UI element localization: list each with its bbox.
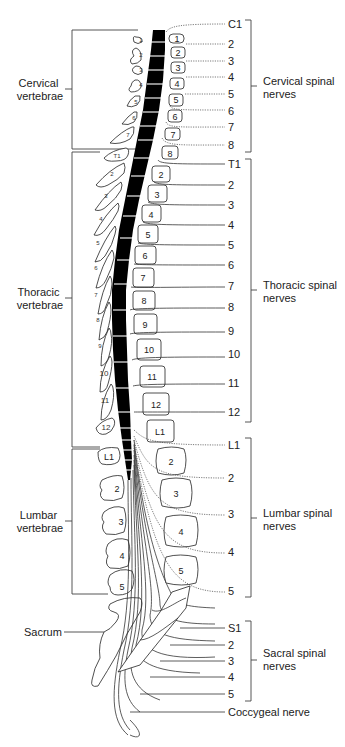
svg-text:6: 6: [172, 112, 177, 122]
svg-text:5: 5: [96, 240, 100, 246]
svg-text:4: 4: [119, 551, 124, 561]
svg-text:11: 11: [228, 377, 239, 389]
thoracic-nerves-bracket: [245, 159, 257, 422]
svg-text:7: 7: [94, 292, 98, 298]
svg-text:4: 4: [228, 71, 234, 83]
svg-text:3: 3: [228, 199, 234, 211]
spinal-anatomy-diagram: Cervical vertebrae Thoracic vertebrae Lu…: [0, 0, 345, 747]
svg-text:T1: T1: [228, 158, 241, 170]
cervical-spinous-processes: 1 2 3 4 5 6 7: [110, 37, 143, 144]
svg-text:3: 3: [139, 67, 143, 73]
svg-text:2: 2: [168, 457, 173, 467]
svg-text:3: 3: [173, 489, 178, 499]
svg-text:7: 7: [228, 121, 234, 133]
svg-text:5: 5: [228, 585, 234, 597]
svg-text:2: 2: [175, 48, 180, 58]
svg-text:C1: C1: [228, 18, 242, 30]
lumbar-vertebrae-bracket: [65, 449, 108, 594]
cervical-vertebrae-label: Cervical vertebrae: [17, 77, 63, 102]
svg-text:T1: T1: [113, 153, 121, 159]
svg-text:8: 8: [96, 317, 100, 323]
svg-text:9: 9: [142, 320, 147, 330]
sacral-nerve-labels: S1 2 3 4 5: [228, 622, 241, 700]
svg-text:5: 5: [228, 88, 234, 100]
svg-text:9: 9: [98, 343, 102, 349]
svg-text:5: 5: [228, 688, 234, 700]
svg-text:10: 10: [228, 348, 240, 360]
svg-text:3: 3: [154, 190, 159, 200]
svg-text:10: 10: [100, 369, 109, 378]
svg-text:9: 9: [228, 325, 234, 337]
svg-text:3: 3: [228, 508, 234, 520]
svg-text:3: 3: [228, 55, 234, 67]
svg-text:10: 10: [144, 345, 154, 355]
svg-text:3: 3: [175, 63, 180, 73]
svg-text:6: 6: [228, 259, 234, 271]
svg-text:L1: L1: [155, 427, 165, 437]
svg-text:2: 2: [228, 472, 234, 484]
svg-text:8: 8: [141, 296, 146, 306]
svg-text:2: 2: [228, 38, 234, 50]
svg-text:6: 6: [228, 105, 234, 117]
svg-text:7: 7: [170, 130, 175, 140]
svg-text:5: 5: [178, 566, 183, 576]
svg-text:5: 5: [228, 239, 234, 251]
svg-text:12: 12: [228, 406, 240, 418]
lumbar-vertebral-bodies: 2 3 4 5: [156, 447, 198, 585]
sacrum-label: Sacrum: [24, 626, 62, 638]
svg-text:5: 5: [173, 95, 178, 105]
svg-text:2: 2: [228, 639, 234, 651]
cervical-nerve-labels: C1 2 3 4 5 6 7 8: [228, 18, 242, 151]
svg-text:11: 11: [101, 396, 110, 405]
lumbar-spinal-nerves-label: Lumbar spinal nerves: [263, 507, 335, 532]
cervical-vertebral-bodies: 1 2 3 4 5 6 7 8: [162, 34, 185, 159]
sacral-nerves-bracket: [245, 621, 257, 701]
svg-text:4: 4: [148, 210, 153, 220]
svg-text:3: 3: [228, 655, 234, 667]
sacrum-shape: [92, 598, 142, 687]
svg-text:7: 7: [228, 280, 234, 292]
svg-text:S1: S1: [228, 622, 241, 634]
svg-text:7: 7: [140, 273, 145, 283]
thoracic-vertebral-bodies: 2 3 4 5 6 7 8 9 10 11 12 L1: [133, 166, 174, 442]
svg-text:2: 2: [228, 179, 234, 191]
svg-text:6: 6: [142, 251, 147, 261]
svg-text:12: 12: [151, 400, 161, 410]
svg-text:4: 4: [228, 546, 234, 558]
thoracic-nerve-labels: T1 2 3 4 5 6 7 8 9 10 11 12: [228, 158, 241, 418]
svg-text:2: 2: [158, 170, 163, 180]
svg-text:3: 3: [118, 517, 123, 527]
svg-text:8: 8: [228, 139, 234, 151]
svg-text:8: 8: [167, 149, 172, 159]
lumbar-vertebrae-label: Lumbar vertebrae: [17, 509, 63, 534]
sacral-spinal-nerves-label: Sacral spinal nerves: [263, 647, 329, 672]
svg-text:L1: L1: [228, 439, 240, 451]
svg-text:12: 12: [102, 423, 111, 432]
svg-text:4: 4: [228, 219, 234, 231]
cervical-nerves-bracket: [245, 20, 257, 152]
svg-text:8: 8: [228, 301, 234, 313]
lumbar-nerves-bracket: [245, 438, 257, 597]
svg-text:5: 5: [145, 230, 150, 240]
lumbar-nerve-labels: L1 2 3 4 5: [228, 439, 240, 597]
svg-text:4: 4: [178, 527, 183, 537]
svg-text:4: 4: [228, 671, 234, 683]
svg-text:4: 4: [174, 79, 179, 89]
thoracic-vertebrae-label: Thoracic vertebrae: [17, 286, 63, 311]
svg-text:L1: L1: [104, 452, 114, 462]
coccygeal-nerve-label: Coccygeal nerve: [228, 706, 310, 718]
svg-text:5: 5: [119, 582, 124, 592]
thoracic-spinal-nerves-label: Thoracic spinal nerves: [263, 279, 340, 304]
svg-text:6: 6: [94, 265, 98, 271]
svg-text:2: 2: [139, 52, 143, 58]
cervical-spinal-nerves-label: Cervical spinal nerves: [263, 75, 338, 100]
svg-text:1: 1: [139, 37, 143, 43]
thoracic-vertebrae-bracket: [65, 152, 100, 447]
svg-text:11: 11: [147, 372, 156, 382]
svg-text:4: 4: [139, 82, 143, 88]
svg-text:1: 1: [174, 34, 179, 44]
svg-text:2: 2: [114, 484, 119, 494]
